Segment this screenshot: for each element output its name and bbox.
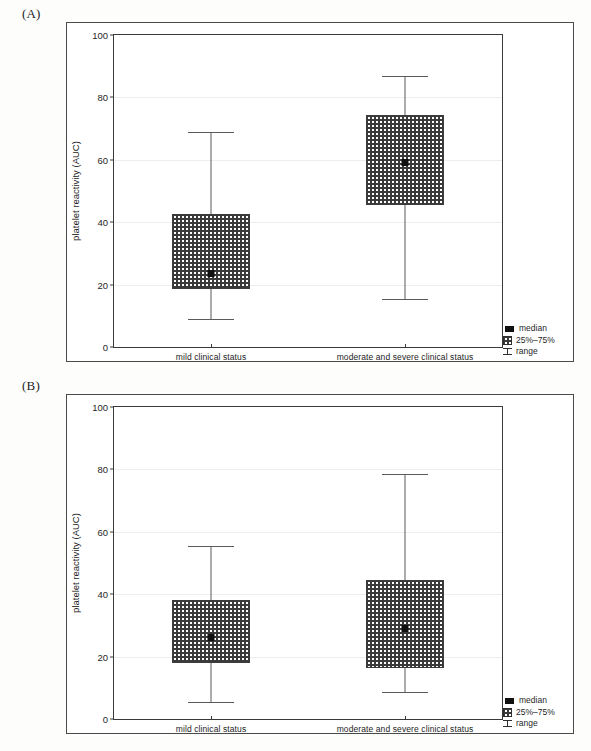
y-tick-label: 20 xyxy=(97,279,108,290)
y-tick-mark xyxy=(110,531,114,532)
y-tick-mark xyxy=(110,35,114,36)
y-tick-label: 80 xyxy=(97,464,108,475)
y-tick-mark xyxy=(110,284,114,285)
lower-whisker-cap xyxy=(188,702,234,703)
iqr-box xyxy=(366,580,444,667)
median-swatch-icon xyxy=(505,698,514,704)
y-tick-label: 100 xyxy=(92,30,108,41)
legend-row-median: median xyxy=(503,695,569,706)
plot-frame-b: platelet reactivity (AUC)020406080100mil… xyxy=(66,394,574,734)
lower-whisker-cap xyxy=(188,319,234,320)
y-axis-label: platelet reactivity (AUC) xyxy=(74,35,75,347)
legend-label-iqr: 25%–75% xyxy=(516,707,555,718)
figure-panel-b: (B) platelet reactivity (AUC)02040608010… xyxy=(0,372,591,751)
y-tick-label: 20 xyxy=(97,651,108,662)
y-tick-label: 60 xyxy=(97,526,108,537)
x-axis-category-label: moderate and severe clinical status xyxy=(337,724,474,734)
y-tick-label: 80 xyxy=(97,92,108,103)
iqr-box xyxy=(172,214,250,289)
box-plot-mild xyxy=(151,35,271,347)
legend-label-range: range xyxy=(516,718,538,729)
y-axis-label-text: platelet reactivity (AUC) xyxy=(69,513,80,613)
y-tick-label: 0 xyxy=(103,342,108,353)
y-tick-mark xyxy=(110,222,114,223)
x-axis-category-label: mild clinical status xyxy=(176,724,247,734)
y-tick-mark xyxy=(110,469,114,470)
y-tick-mark xyxy=(110,159,114,160)
x-axis-category-label: moderate and severe clinical status xyxy=(337,352,474,362)
upper-whisker-cap xyxy=(382,474,428,475)
legend-row-iqr: 25%–75% xyxy=(503,335,569,346)
median-marker xyxy=(402,159,409,166)
x-axis-category-label: mild clinical status xyxy=(176,352,247,362)
legend-label-median: median xyxy=(519,323,547,334)
legend-label-range: range xyxy=(516,346,538,357)
lower-whisker xyxy=(405,205,406,299)
lower-whisker xyxy=(211,289,212,319)
upper-whisker xyxy=(405,76,406,115)
range-swatch-icon xyxy=(503,719,512,728)
upper-whisker-cap xyxy=(188,132,234,133)
range-swatch-icon xyxy=(503,347,512,356)
y-tick-mark xyxy=(110,594,114,595)
y-tick-label: 100 xyxy=(92,402,108,413)
median-marker xyxy=(208,634,215,641)
plot-axes-a: platelet reactivity (AUC)020406080100mil… xyxy=(113,34,503,348)
median-marker xyxy=(208,270,215,277)
plot-axes-b: platelet reactivity (AUC)020406080100mil… xyxy=(113,406,503,720)
y-tick-label: 40 xyxy=(97,589,108,600)
y-tick-label: 60 xyxy=(97,154,108,165)
legend-row-iqr: 25%–75% xyxy=(503,707,569,718)
lower-whisker-cap xyxy=(382,299,428,300)
iqr-swatch-icon xyxy=(503,708,512,717)
iqr-box xyxy=(172,600,250,662)
legend-label-median: median xyxy=(519,695,547,706)
lower-whisker-cap xyxy=(382,692,428,693)
panel-letter-a: (A) xyxy=(22,6,41,22)
y-tick-label: 0 xyxy=(103,714,108,725)
plot-frame-a: platelet reactivity (AUC)020406080100mil… xyxy=(66,22,574,362)
iqr-swatch-icon xyxy=(503,336,512,345)
legend-b: median 25%–75% range xyxy=(503,695,569,729)
y-tick-mark xyxy=(110,347,114,348)
upper-whisker-cap xyxy=(188,546,234,547)
upper-whisker xyxy=(211,546,212,601)
y-tick-mark xyxy=(110,656,114,657)
y-axis-label: platelet reactivity (AUC) xyxy=(74,407,75,719)
box-plot-mild xyxy=(151,407,271,719)
legend-row-median: median xyxy=(503,323,569,334)
y-tick-label: 40 xyxy=(97,217,108,228)
figure-panel-a: (A) platelet reactivity (AUC)02040608010… xyxy=(0,0,591,372)
upper-whisker-cap xyxy=(382,76,428,77)
box-plot-moderate-severe xyxy=(345,407,465,719)
median-marker xyxy=(402,625,409,632)
lower-whisker xyxy=(211,663,212,702)
y-axis-label-text: platelet reactivity (AUC) xyxy=(69,141,80,241)
legend-label-iqr: 25%–75% xyxy=(516,335,555,346)
y-tick-mark xyxy=(110,407,114,408)
legend-row-range: range xyxy=(503,718,569,729)
upper-whisker xyxy=(211,132,212,215)
legend-row-range: range xyxy=(503,346,569,357)
lower-whisker xyxy=(405,668,406,693)
panel-letter-b: (B) xyxy=(22,378,40,394)
median-swatch-icon xyxy=(505,326,514,332)
box-plot-moderate-severe xyxy=(345,35,465,347)
y-tick-mark xyxy=(110,719,114,720)
legend-a: median 25%–75% range xyxy=(503,323,569,357)
upper-whisker xyxy=(405,474,406,580)
y-tick-mark xyxy=(110,97,114,98)
